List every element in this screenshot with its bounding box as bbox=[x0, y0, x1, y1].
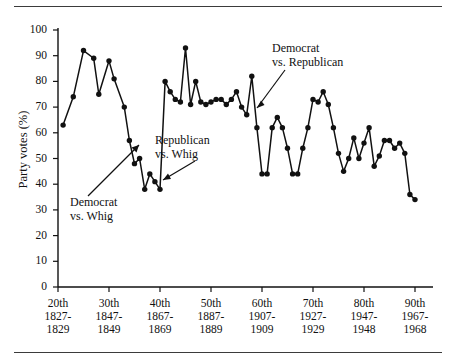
x-tick-label-line: 1909 bbox=[236, 323, 288, 336]
annotation-line-1: Democrat bbox=[70, 196, 117, 210]
x-tick-label-line: 50th bbox=[185, 297, 237, 310]
y-tick-label: 50 bbox=[21, 152, 47, 165]
data-point bbox=[81, 48, 86, 53]
data-point bbox=[387, 138, 392, 143]
x-tick-label-line: 1867- bbox=[134, 310, 186, 323]
x-tick-label-line: 80th bbox=[338, 297, 390, 310]
x-tick-label-line: 1849 bbox=[83, 323, 135, 336]
x-tick-label: 40th1867-1869 bbox=[134, 297, 186, 336]
data-point bbox=[122, 104, 127, 109]
data-point bbox=[356, 156, 361, 161]
x-tick-label-line: 1967- bbox=[389, 310, 441, 323]
series-polyline bbox=[63, 48, 415, 200]
data-point bbox=[377, 153, 382, 158]
x-tick-label-line: 1927- bbox=[287, 310, 339, 323]
arrow-democrat-vs-republican bbox=[257, 70, 285, 108]
y-tick-label: 90 bbox=[21, 49, 47, 62]
data-point bbox=[310, 97, 315, 102]
data-point bbox=[305, 125, 310, 130]
x-tick-label-line: 70th bbox=[287, 297, 339, 310]
data-point bbox=[106, 58, 111, 63]
data-point bbox=[280, 125, 285, 130]
data-point bbox=[60, 122, 65, 127]
data-point bbox=[392, 146, 397, 151]
data-point bbox=[219, 97, 224, 102]
data-point bbox=[224, 102, 229, 107]
data-point bbox=[239, 104, 244, 109]
data-point bbox=[361, 140, 366, 145]
data-point bbox=[346, 156, 351, 161]
data-point bbox=[331, 125, 336, 130]
x-axis-ticks bbox=[58, 287, 415, 292]
x-tick-label-line: 90th bbox=[389, 297, 441, 310]
annotation-line-2: vs. Republican bbox=[272, 56, 343, 70]
data-point bbox=[178, 99, 183, 104]
data-point bbox=[412, 197, 417, 202]
x-tick-label: 50th1887-1889 bbox=[185, 297, 237, 336]
data-point bbox=[127, 138, 132, 143]
data-point bbox=[366, 125, 371, 130]
x-tick-label-line: 1827- bbox=[32, 310, 84, 323]
data-point bbox=[132, 161, 137, 166]
x-tick-label-line: 30th bbox=[83, 297, 135, 310]
x-tick-label: 30th1847-1849 bbox=[83, 297, 135, 336]
data-point bbox=[183, 45, 188, 50]
data-point bbox=[173, 97, 178, 102]
y-tick-label: 100 bbox=[21, 23, 47, 36]
data-series-democrat-party-votes bbox=[60, 45, 417, 202]
data-point bbox=[198, 99, 203, 104]
x-tick-label-line: 1889 bbox=[185, 323, 237, 336]
arrow-republican-vs-whig bbox=[163, 161, 195, 180]
chart-axes bbox=[53, 28, 433, 292]
x-tick-label: 20th1827-1829 bbox=[32, 297, 84, 336]
x-tick-label: 90th1967-1968 bbox=[389, 297, 441, 336]
x-tick-label-line: 60th bbox=[236, 297, 288, 310]
arrow-democrat-vs-whig bbox=[88, 145, 139, 196]
annotation-line-1: Republican bbox=[155, 134, 210, 148]
y-tick-label: 20 bbox=[21, 229, 47, 242]
data-point bbox=[402, 151, 407, 156]
y-tick-label: 10 bbox=[21, 254, 47, 267]
data-point bbox=[188, 102, 193, 107]
data-point bbox=[275, 115, 280, 120]
y-tick-label: 40 bbox=[21, 177, 47, 190]
data-point bbox=[142, 187, 147, 192]
y-tick-label: 60 bbox=[21, 126, 47, 139]
x-tick-label-line: 1829 bbox=[32, 323, 84, 336]
data-point bbox=[152, 179, 157, 184]
data-point bbox=[111, 76, 116, 81]
data-point bbox=[336, 151, 341, 156]
annotation-line-2: vs. Whig bbox=[70, 210, 117, 224]
data-point bbox=[300, 146, 305, 151]
x-tick-label-line: 1869 bbox=[134, 323, 186, 336]
data-point bbox=[264, 171, 269, 176]
data-point bbox=[193, 79, 198, 84]
data-point bbox=[290, 171, 295, 176]
data-point bbox=[229, 97, 234, 102]
y-tick-label: 70 bbox=[21, 100, 47, 113]
data-point bbox=[315, 99, 320, 104]
data-point bbox=[96, 92, 101, 97]
x-tick-label-line: 40th bbox=[134, 297, 186, 310]
data-point bbox=[147, 171, 152, 176]
data-point bbox=[321, 89, 326, 94]
annotation-line-1: Democrat bbox=[272, 42, 343, 56]
data-point bbox=[91, 56, 96, 61]
data-point bbox=[326, 102, 331, 107]
data-point bbox=[249, 74, 254, 79]
annotation-line-2: vs. Whig bbox=[155, 148, 210, 162]
data-point bbox=[162, 79, 167, 84]
x-tick-label-line: 1929 bbox=[287, 323, 339, 336]
chart-figure: Party votes (%) 0102030405060708090100 2… bbox=[0, 0, 456, 363]
data-point bbox=[407, 192, 412, 197]
data-point bbox=[382, 138, 387, 143]
data-point bbox=[295, 171, 300, 176]
x-tick-label-line: 20th bbox=[32, 297, 84, 310]
data-point bbox=[203, 102, 208, 107]
data-point bbox=[259, 171, 264, 176]
data-point bbox=[397, 140, 402, 145]
x-tick-label: 60th1907-1909 bbox=[236, 297, 288, 336]
x-tick-label: 70th1927-1929 bbox=[287, 297, 339, 336]
x-tick-label-line: 1907- bbox=[236, 310, 288, 323]
x-tick-label-line: 1948 bbox=[338, 323, 390, 336]
